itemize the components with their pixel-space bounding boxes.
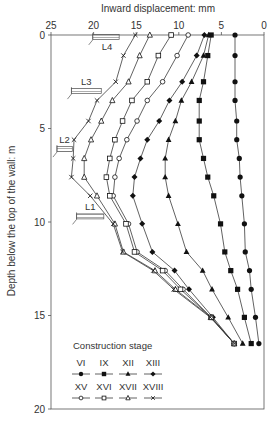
data-point — [88, 194, 92, 198]
legend-item-xv: XV — [72, 381, 90, 400]
data-point — [162, 174, 168, 179]
x-tick-label: 5 — [219, 20, 225, 31]
series-line-xv — [113, 35, 234, 344]
data-point — [88, 137, 93, 142]
data-point — [175, 221, 181, 226]
y-axis-title: Depth below the top of the wall: m — [6, 146, 17, 297]
x-tick-label: 0 — [261, 20, 267, 31]
legend-item-xii: XII — [119, 357, 137, 376]
data-point — [132, 250, 137, 255]
anchor-annotation-l3: L3 — [67, 76, 101, 99]
data-point — [237, 156, 242, 161]
data-point — [99, 118, 104, 123]
data-point — [107, 156, 112, 161]
data-point — [169, 33, 174, 38]
x-axis-title: Inward displacement: mm — [101, 3, 215, 14]
data-point — [197, 137, 202, 142]
data-point — [137, 53, 142, 58]
data-point — [232, 79, 237, 84]
data-point — [249, 287, 254, 292]
anchor-label: L4 — [102, 41, 113, 52]
y-axis-ticks: 05101520 — [34, 30, 51, 415]
data-point — [211, 193, 216, 198]
anchor-annotation-l2: L2 — [53, 134, 72, 157]
data-point — [137, 155, 143, 161]
data-point — [160, 268, 165, 273]
data-point — [178, 97, 184, 102]
data-point — [117, 156, 122, 161]
x-tick-label: 15 — [131, 20, 143, 31]
data-point — [107, 194, 112, 199]
data-point — [126, 79, 131, 84]
data-point — [114, 80, 118, 84]
legend-title: Construction stage — [73, 340, 152, 351]
data-point — [201, 79, 206, 84]
legend-marker-filled-diamond-icon — [150, 371, 155, 376]
data-point — [172, 118, 178, 123]
data-point — [120, 119, 125, 124]
data-point — [197, 98, 202, 103]
data-point — [156, 53, 161, 58]
legend-label: XVI — [96, 381, 111, 392]
data-point — [222, 249, 227, 254]
data-point — [130, 193, 136, 199]
data-point — [234, 137, 239, 142]
series-markers-xvii — [82, 32, 237, 346]
data-point — [86, 119, 90, 123]
data-point — [113, 137, 118, 142]
data-point — [184, 249, 190, 254]
data-point — [239, 193, 244, 198]
data-point — [225, 314, 231, 319]
anchor-box — [71, 89, 101, 94]
legend-label: XII — [122, 357, 134, 368]
data-point — [238, 175, 243, 180]
anchor-label: L3 — [81, 76, 92, 87]
legend-item-xviii: XVIII — [143, 381, 164, 400]
legend-marker-open-triangle-icon — [126, 395, 130, 399]
legend-label: XVII — [119, 381, 137, 392]
anchor-leader — [53, 152, 57, 157]
data-point — [175, 53, 180, 58]
anchor-leader — [67, 94, 71, 99]
data-point — [249, 341, 254, 346]
series-markers — [69, 32, 261, 347]
legend-item-xiii: XIII — [144, 357, 162, 377]
data-point — [243, 249, 248, 254]
data-point — [194, 53, 200, 59]
data-point — [242, 221, 247, 226]
anchor-label: L1 — [85, 201, 96, 212]
data-point — [240, 340, 246, 345]
data-point — [235, 287, 240, 292]
series-line-xviii — [71, 35, 234, 344]
series-line-ix — [199, 35, 251, 344]
y-tick-label: 5 — [39, 123, 45, 134]
legend-marker-filled-circle-icon — [79, 372, 83, 376]
legend-label: XVIII — [143, 381, 164, 392]
legend-marker-filled-square-icon — [102, 372, 106, 376]
data-point — [253, 315, 258, 320]
anchor-leader — [73, 219, 77, 224]
data-point — [228, 268, 233, 273]
data-point — [209, 286, 215, 291]
data-point — [130, 98, 135, 103]
data-point — [197, 118, 202, 123]
anchor-annotation-l4: L4 — [89, 33, 119, 52]
data-point — [205, 175, 210, 180]
y-tick-label: 10 — [34, 217, 46, 228]
legend-item-xvi: XVI — [95, 381, 113, 400]
anchor-leader — [89, 40, 93, 45]
data-point — [162, 155, 168, 160]
anchor-box — [57, 147, 72, 152]
data-point — [121, 53, 125, 57]
data-point — [104, 175, 109, 180]
data-point — [179, 79, 185, 85]
data-point — [139, 221, 145, 227]
data-point — [125, 137, 130, 142]
y-tick-label: 20 — [34, 404, 46, 415]
y-tick-label: 0 — [39, 30, 45, 41]
series-markers-xvi — [104, 33, 236, 346]
data-point — [144, 137, 150, 143]
data-point — [145, 79, 150, 84]
data-point — [247, 268, 252, 273]
data-point — [232, 98, 237, 103]
